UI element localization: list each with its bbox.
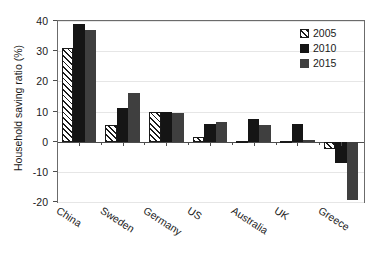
x-axis-label-uk: UK [273, 204, 292, 222]
x-tick-mark [341, 142, 342, 146]
household-saving-ratio-bar-chart: Household saving ratio (%) 403020100-10-… [0, 0, 380, 268]
bar [248, 119, 260, 142]
x-axis-ticks [57, 142, 365, 147]
x-tick-minor [188, 142, 189, 145]
x-axis-label-germany: Germany [142, 204, 185, 238]
y-tick-label: 30 [18, 45, 48, 57]
bar [149, 112, 161, 142]
y-tick-label: -20 [18, 196, 48, 208]
bar [62, 48, 74, 142]
bar [292, 124, 304, 142]
y-tick-label: -10 [18, 166, 48, 178]
legend-swatch-icon [300, 29, 309, 38]
legend-item: 2005 [300, 26, 372, 40]
x-tick-mark [123, 142, 124, 146]
legend-swatch-icon [300, 59, 309, 68]
bar [128, 93, 140, 141]
x-axis-label-greece: Greece [317, 204, 352, 233]
gridline--20 [58, 202, 364, 203]
bar [85, 30, 97, 142]
bar [216, 122, 228, 142]
y-tick-label: 40 [18, 15, 48, 27]
bar [259, 125, 271, 142]
x-tick-mark [210, 142, 211, 146]
x-tick-minor [101, 142, 102, 145]
x-axis-label-sweden: Sweden [98, 204, 136, 235]
bar [193, 137, 205, 142]
y-tick-label: 20 [18, 75, 48, 87]
legend-label: 2005 [313, 27, 336, 39]
legend-label: 2010 [313, 42, 336, 54]
legend-swatch-icon [300, 44, 309, 53]
x-axis-label-australia: Australia [229, 204, 270, 236]
bar [105, 125, 117, 142]
x-tick-mark [254, 142, 255, 146]
x-tick-minor [319, 142, 320, 145]
x-tick-minor [232, 142, 233, 145]
x-tick-minor [144, 142, 145, 145]
bar [204, 124, 216, 142]
x-tick-mark [79, 142, 80, 146]
legend-label: 2015 [313, 57, 336, 69]
x-tick-mark [297, 142, 298, 146]
legend: 200520102015 [300, 26, 372, 71]
bar [73, 24, 85, 142]
y-tick-label: 10 [18, 106, 48, 118]
bar [117, 108, 129, 141]
bar [161, 112, 173, 142]
x-tick-minor [276, 142, 277, 145]
y-axis-ticks: 403020100-10-20 [0, 20, 57, 203]
bar [172, 113, 184, 142]
legend-item: 2015 [300, 56, 372, 70]
x-tick-mark [166, 142, 167, 146]
legend-item: 2010 [300, 41, 372, 55]
x-axis-labels: ChinaSwedenGermanyUSAustraliaUKGreece [57, 204, 365, 266]
x-axis-label-us: US [185, 204, 204, 222]
x-axis-label-china: China [54, 204, 84, 229]
bar [347, 142, 359, 201]
y-tick-label: 0 [18, 136, 48, 148]
